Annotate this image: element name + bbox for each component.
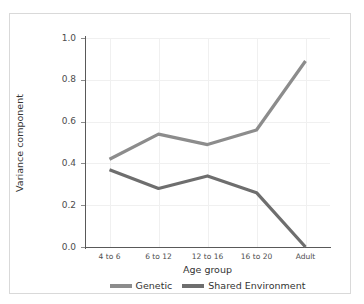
y-axis-title: Variance component [15, 94, 25, 192]
legend-label: Genetic [136, 281, 173, 291]
series-lines [0, 0, 364, 304]
legend-entry[interactable]: Shared Environment [182, 281, 305, 291]
legend-line-icon [110, 284, 132, 288]
x-axis-title: Age group [85, 265, 330, 275]
series-line [110, 170, 306, 247]
series-line [110, 61, 306, 159]
line-chart: 0.00.20.40.60.81.0 4 to 66 to 1212 to 16… [0, 0, 364, 304]
legend-label: Shared Environment [208, 281, 305, 291]
chart-legend: GeneticShared Environment [85, 281, 330, 291]
legend-entry[interactable]: Genetic [110, 281, 173, 291]
legend-line-icon [182, 284, 204, 288]
